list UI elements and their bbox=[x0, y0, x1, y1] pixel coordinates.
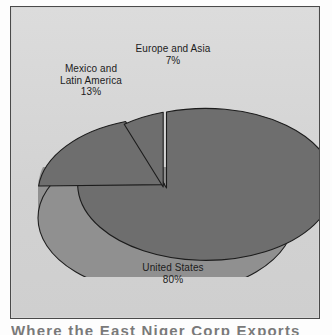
pie-label-europe-asia-name: Europe and Asia bbox=[136, 43, 211, 54]
figure-root: Europe and Asia 7% Mexico and Latin Amer… bbox=[0, 0, 332, 335]
pie-label-mexico-latin-america: Mexico and Latin America 13% bbox=[39, 63, 143, 98]
figure-caption: Where the East Niger Corp Exports bbox=[11, 322, 321, 335]
pie-label-mexico-line1: Mexico and bbox=[65, 63, 117, 74]
chart-panel: Europe and Asia 7% Mexico and Latin Amer… bbox=[10, 6, 320, 319]
pie-label-mexico-value: 13% bbox=[39, 86, 143, 98]
pie-label-mexico-line2: Latin America bbox=[60, 75, 122, 86]
pie-label-united-states-name: United States bbox=[142, 262, 203, 273]
pie-label-united-states-value: 80% bbox=[117, 274, 229, 286]
pie-label-united-states: United States 80% bbox=[117, 262, 229, 285]
